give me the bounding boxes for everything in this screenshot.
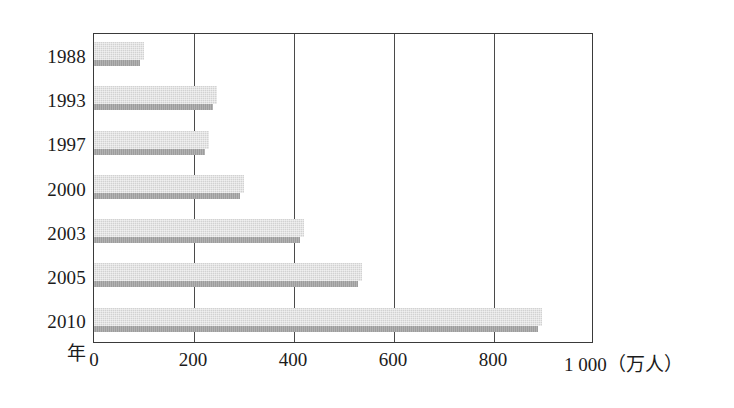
bar-shadow	[94, 237, 300, 243]
bar-1988	[94, 42, 144, 67]
bar-body	[94, 86, 217, 104]
y-axis-tick-label: 1988	[0, 46, 86, 68]
bar-body	[94, 263, 362, 281]
y-axis-tick-label: 2003	[0, 223, 86, 245]
bar-shadow	[94, 149, 205, 155]
x-axis-tick-label: 200	[179, 349, 208, 371]
bar-2005	[94, 263, 362, 288]
x-axis-tick-label: 600	[379, 349, 408, 371]
x-axis-tick-label: 800	[479, 349, 508, 371]
bar-body	[94, 219, 304, 237]
y-axis-tick-label: 1993	[0, 90, 86, 112]
gridline-800	[494, 34, 495, 342]
bar-shadow	[94, 326, 538, 332]
bar-chart-figure: 1988 1993 1997 2000 2003 2005 2010 年	[0, 0, 734, 408]
gridline-400	[294, 34, 295, 342]
y-axis-tick-label: 2010	[0, 311, 86, 333]
bar-shadow	[94, 104, 213, 110]
bar-shadow	[94, 60, 140, 66]
plot-area	[93, 33, 593, 343]
gridline-600	[394, 34, 395, 342]
bar-1993	[94, 86, 217, 111]
bar-body	[94, 175, 244, 193]
bar-body	[94, 131, 209, 149]
bar-2003	[94, 219, 304, 244]
bar-shadow	[94, 193, 240, 199]
bar-shadow	[94, 281, 358, 287]
y-axis-tick-label: 1997	[0, 134, 86, 156]
x-axis-tick-label: 400	[279, 349, 308, 371]
bar-body	[94, 308, 542, 326]
y-axis-tick-label: 2005	[0, 267, 86, 289]
bar-body	[94, 42, 144, 60]
bar-2000	[94, 175, 244, 200]
y-axis-category-labels: 1988 1993 1997 2000 2003 2005 2010	[0, 33, 86, 343]
bar-2010	[94, 308, 542, 333]
y-axis-tick-label: 2000	[0, 179, 86, 201]
x-axis-tick-label: 0	[89, 349, 99, 371]
bar-1997	[94, 131, 209, 156]
x-axis-unit-label: 1 000（万人）	[564, 349, 683, 376]
